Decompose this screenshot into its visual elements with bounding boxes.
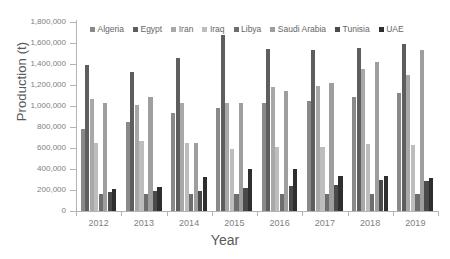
legend-item-libya[interactable]: Libya <box>234 25 262 34</box>
y-axis-tick-label: 1,000,000 <box>0 101 66 110</box>
legend-item-algeria[interactable]: Algeria <box>90 25 124 34</box>
bar-iraq-2013 <box>139 141 143 211</box>
legend-item-egypt[interactable]: Egypt <box>133 25 162 34</box>
bar-algeria-2015 <box>216 108 220 211</box>
bar-saudi-arabia-2017 <box>329 83 333 211</box>
legend-label: Saudi Arabia <box>278 25 326 34</box>
legend-label: UAE <box>386 25 403 34</box>
x-axis-tick-label: 2016 <box>257 218 302 228</box>
bar-iran-2013 <box>135 105 139 211</box>
bar-algeria-2019 <box>397 93 401 211</box>
bar-algeria-2012 <box>81 129 85 211</box>
x-axis-tick-label: 2018 <box>348 218 393 228</box>
legend-swatch-icon <box>171 27 176 32</box>
x-axis-tick <box>212 211 213 216</box>
bar-iraq-2018 <box>366 144 370 211</box>
bar-algeria-2014 <box>171 113 175 211</box>
x-axis-tick <box>257 211 258 216</box>
legend-swatch-icon <box>234 27 239 32</box>
legend-swatch-icon <box>335 27 340 32</box>
bar-saudi-arabia-2012 <box>103 103 107 211</box>
legend-label: Algeria <box>98 25 124 34</box>
bar-algeria-2016 <box>262 103 266 211</box>
bar-saudi-arabia-2013 <box>148 97 152 211</box>
legend-item-uae[interactable]: UAE <box>379 25 404 34</box>
x-axis-tick-label: 2012 <box>76 218 121 228</box>
bar-iran-2018 <box>361 69 365 211</box>
chart-legend: AlgeriaEgyptIranIraqLibyaSaudi ArabiaTun… <box>90 25 404 34</box>
bar-saudi-arabia-2015 <box>239 103 243 211</box>
x-axis-tick <box>438 211 439 216</box>
y-axis-tick-label: 0 <box>0 206 66 215</box>
x-axis-title: Year <box>0 232 450 248</box>
bar-saudi-arabia-2018 <box>375 62 379 211</box>
bar-iraq-2014 <box>185 143 189 211</box>
x-axis-tick-label: 2017 <box>302 218 347 228</box>
bar-uae-2019 <box>429 178 433 211</box>
x-axis-tick <box>121 211 122 216</box>
bar-iran-2014 <box>180 103 184 211</box>
legend-label: Libya <box>241 25 261 34</box>
bar-iran-2015 <box>225 103 229 211</box>
y-axis-tick-label: 800,000 <box>0 122 66 131</box>
legend-label: Tunisia <box>343 25 370 34</box>
x-axis-tick <box>393 211 394 216</box>
legend-swatch-icon <box>270 27 275 32</box>
y-axis-tick-label: 1,800,000 <box>0 17 66 26</box>
bar-iraq-2012 <box>94 143 98 211</box>
bar-iraq-2017 <box>320 147 324 211</box>
bar-uae-2013 <box>157 187 161 211</box>
legend-item-iraq[interactable]: Iraq <box>202 25 224 34</box>
bar-iraq-2015 <box>230 149 234 211</box>
x-axis-tick-label: 2014 <box>167 218 212 228</box>
x-axis-tick-label: 2013 <box>121 218 166 228</box>
legend-item-saudi-arabia[interactable]: Saudi Arabia <box>270 25 326 34</box>
legend-item-iran[interactable]: Iran <box>171 25 193 34</box>
bar-saudi-arabia-2014 <box>194 143 198 211</box>
plot-area <box>76 22 438 211</box>
y-axis-tick-label: 1,400,000 <box>0 59 66 68</box>
bar-uae-2014 <box>203 177 207 211</box>
y-axis-tick-label: 1,600,000 <box>0 38 66 47</box>
y-axis-tick-label: 600,000 <box>0 143 66 152</box>
bar-uae-2016 <box>293 169 297 211</box>
legend-swatch-icon <box>133 27 138 32</box>
y-axis-tick-label: 400,000 <box>0 164 66 173</box>
bar-uae-2015 <box>248 169 252 211</box>
legend-item-tunisia[interactable]: Tunisia <box>335 25 370 34</box>
bar-iran-2016 <box>271 87 275 211</box>
x-axis-tick-label: 2019 <box>393 218 438 228</box>
bar-algeria-2018 <box>352 97 356 211</box>
bar-iran-2012 <box>90 99 94 211</box>
bar-uae-2017 <box>338 176 342 211</box>
x-axis-tick <box>302 211 303 216</box>
x-axis-tick <box>76 211 77 216</box>
legend-label: Egypt <box>140 25 162 34</box>
legend-swatch-icon <box>379 27 384 32</box>
x-axis-tick <box>167 211 168 216</box>
legend-label: Iran <box>179 25 194 34</box>
bar-iraq-2016 <box>275 147 279 211</box>
legend-label: Iraq <box>210 25 225 34</box>
bar-algeria-2017 <box>307 101 311 211</box>
legend-swatch-icon <box>202 27 207 32</box>
y-axis-tick-label: 200,000 <box>0 185 66 194</box>
x-axis-tick-label: 2015 <box>212 218 257 228</box>
bar-iran-2017 <box>316 86 320 211</box>
y-axis-tick-label: 1,200,000 <box>0 80 66 89</box>
bar-iran-2019 <box>406 75 410 212</box>
production-bar-chart: Production (t) 0200,000400,000600,000800… <box>0 0 450 259</box>
bar-algeria-2013 <box>126 122 130 211</box>
legend-swatch-icon <box>90 27 95 32</box>
x-axis-tick <box>348 211 349 216</box>
bar-saudi-arabia-2016 <box>284 91 288 211</box>
bar-saudi-arabia-2019 <box>420 50 424 211</box>
bar-iraq-2019 <box>411 145 415 211</box>
bar-uae-2018 <box>384 176 388 211</box>
bar-uae-2012 <box>112 189 116 211</box>
